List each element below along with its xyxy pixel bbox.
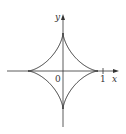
y-axis: [61, 14, 65, 127]
x-tick-label-1: 1: [100, 74, 106, 84]
x-axis-arrow-icon: [113, 69, 119, 73]
x-axis-label: x: [112, 74, 117, 84]
origin-label: 0: [55, 74, 61, 84]
y-axis-label: y: [54, 12, 61, 22]
astroid-figure: y x 0 1: [0, 0, 126, 134]
y-axis-arrow-icon: [61, 14, 65, 20]
